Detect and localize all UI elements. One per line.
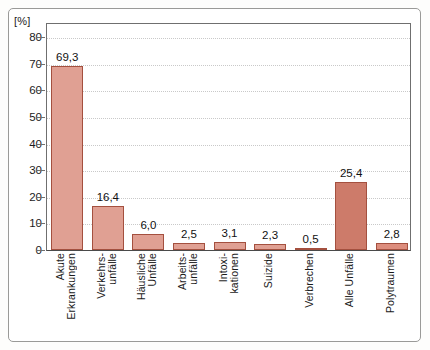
bar bbox=[173, 243, 205, 250]
bar-value-label: 25,4 bbox=[340, 167, 362, 179]
figure-container: [%] 01020304050607080 69,316,46,02,53,12… bbox=[0, 0, 430, 350]
x-axis-category-label: HäuslicheUnfälle bbox=[136, 253, 158, 341]
bar bbox=[376, 243, 408, 250]
y-axis-tick-mark bbox=[36, 144, 45, 145]
x-axis-category-label-line: Intoxi- bbox=[217, 253, 228, 282]
bar-value-label: 16,4 bbox=[97, 191, 119, 203]
x-axis-category-label-line: Alle Unfälle bbox=[345, 253, 356, 307]
x-axis-category-label: Intoxi-kationen bbox=[217, 253, 239, 341]
x-axis-category-label-line: Polytraumen bbox=[385, 253, 396, 313]
bar-value-label: 2,3 bbox=[262, 229, 278, 241]
x-axis-category-label-line: Suizide bbox=[264, 253, 275, 288]
x-axis-category-label: Arbeits-unfälle bbox=[177, 253, 199, 341]
gridline bbox=[47, 118, 410, 119]
gridline bbox=[47, 145, 410, 146]
x-axis-category-label-line: Unfälle bbox=[147, 253, 158, 286]
bar-value-label: 2,8 bbox=[384, 228, 400, 240]
bar bbox=[295, 248, 327, 250]
plot-area: 69,316,46,02,53,12,30,525,42,8 bbox=[46, 23, 411, 251]
x-axis-category-label: Verkehrs-unfälle bbox=[96, 253, 118, 341]
gridline bbox=[47, 65, 410, 66]
bar bbox=[92, 206, 124, 250]
y-axis-tick-mark bbox=[36, 64, 45, 65]
y-axis-tick-mark bbox=[36, 37, 45, 38]
x-axis-category-label: Polytraumen bbox=[385, 253, 396, 341]
y-axis-tick-mark bbox=[36, 170, 45, 171]
gridline bbox=[47, 91, 410, 92]
x-axis-category-label-line: unfälle bbox=[188, 253, 199, 285]
bar bbox=[214, 242, 246, 250]
bar-value-label: 3,1 bbox=[222, 227, 238, 239]
bar-value-label: 0,5 bbox=[303, 233, 319, 245]
bar bbox=[132, 234, 164, 250]
x-axis-category-labels: AkuteErkrankungenVerkehrs-unfälleHäuslic… bbox=[46, 253, 411, 341]
x-axis-category-label-line: kationen bbox=[229, 253, 240, 294]
y-axis-tick-mark bbox=[36, 250, 45, 251]
bar bbox=[51, 66, 83, 250]
x-axis-category-label: Alle Unfälle bbox=[345, 253, 356, 341]
x-axis-category-label-line: Erkrankungen bbox=[66, 253, 77, 320]
bar-value-label: 6,0 bbox=[140, 219, 156, 231]
x-axis-category-label: AkuteErkrankungen bbox=[55, 253, 77, 341]
y-axis-tick-mark bbox=[36, 90, 45, 91]
y-axis-tick-mark bbox=[36, 223, 45, 224]
bar bbox=[254, 244, 286, 250]
x-axis-category-label-line: unfälle bbox=[107, 253, 118, 285]
bar bbox=[335, 182, 367, 250]
x-axis-category-label-line: Verbrechen bbox=[304, 253, 315, 308]
y-axis-tick-mark bbox=[36, 197, 45, 198]
gridline bbox=[47, 38, 410, 39]
x-axis-category-label: Suizide bbox=[264, 253, 275, 341]
bar-value-label: 2,5 bbox=[181, 228, 197, 240]
y-axis-tick-mark bbox=[36, 117, 45, 118]
x-axis-category-label: Verbrechen bbox=[304, 253, 315, 341]
bar-value-label: 69,3 bbox=[56, 51, 78, 63]
y-axis-ticks: 01020304050607080 bbox=[0, 23, 42, 251]
